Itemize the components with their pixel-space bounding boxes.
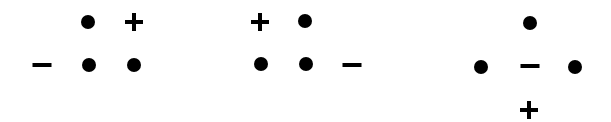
dot-icon [81,15,95,29]
dot-icon [474,60,488,74]
plus-sign-icon [251,13,269,31]
dot-icon [127,58,141,72]
dot-icon [299,57,313,71]
dot-icon [298,14,312,28]
dot-icon [82,58,96,72]
dot-icon [568,60,582,74]
minus-sign-icon [33,63,52,67]
minus-sign-icon [521,64,540,68]
plus-sign-icon [520,101,538,119]
minus-sign-icon [343,63,362,67]
plus-sign-icon [125,13,143,31]
dot-icon [523,16,537,30]
dot-icon [254,57,268,71]
